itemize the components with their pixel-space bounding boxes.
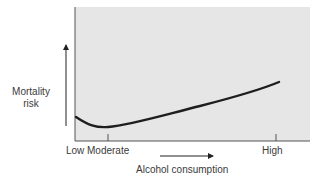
y-axis-label-line2: risk — [4, 98, 58, 110]
y-axis-label: Mortality risk — [4, 86, 58, 110]
x-axis-label: Alcohol consumption — [136, 164, 228, 176]
x-tick-label-low: Low — [66, 145, 84, 157]
plot-area — [75, 7, 310, 141]
x-tick-label-high: High — [262, 145, 283, 157]
x-tick-label-moderate: Moderate — [87, 145, 129, 157]
y-axis-label-line1: Mortality — [4, 86, 58, 98]
